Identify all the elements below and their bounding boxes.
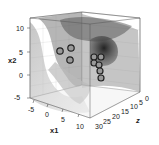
z-axis-label: z [136, 117, 140, 125]
x2-tick-0: 0 [19, 72, 23, 79]
z-tick-10: 10 [130, 103, 138, 110]
z-tick-0: 0 [145, 95, 149, 102]
x1-tick-0: 0 [45, 111, 49, 118]
z-tick-5: 5 [139, 99, 143, 106]
z-tick-15: 15 [121, 108, 129, 115]
x1-tick-neg5: -5 [28, 106, 34, 113]
x2-tick-5: 5 [19, 49, 23, 56]
x2-tick-neg5: -5 [14, 94, 20, 101]
x2-tick-10: 10 [16, 25, 24, 32]
x1-axis-label: x1 [50, 127, 58, 135]
z-tick-20: 20 [112, 113, 120, 120]
z-tick-30: 30 [95, 123, 103, 130]
z-tick-25: 25 [103, 118, 111, 125]
x1-tick-10: 10 [76, 123, 84, 130]
x2-axis-label: x2 [8, 57, 16, 65]
x1-tick-5: 5 [61, 116, 65, 123]
3d-plot: x2 10 5 0 -5 -5 0 5 10 x1 0 5 10 15 20 2… [0, 0, 159, 145]
